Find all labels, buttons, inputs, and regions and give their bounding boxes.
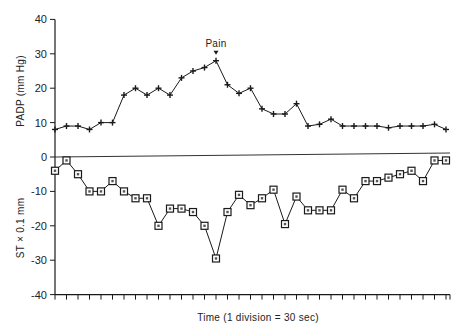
y-tick-label: 0	[41, 151, 47, 163]
square-marker-dot	[261, 197, 263, 199]
square-marker-dot	[307, 209, 309, 211]
y-axis-label-lower: ST × 0.1 mm	[15, 198, 26, 259]
square-marker-dot	[433, 159, 435, 161]
square-marker-dot	[410, 170, 412, 172]
square-marker-dot	[100, 190, 102, 192]
square-marker-dot	[284, 223, 286, 225]
square-marker-dot	[192, 211, 194, 213]
square-marker-dot	[111, 180, 113, 182]
arrow-down-icon	[214, 51, 219, 55]
square-marker-dot	[318, 209, 320, 211]
square-marker-dot	[203, 225, 205, 227]
square-marker-dot	[157, 225, 159, 227]
square-marker-dot	[422, 180, 424, 182]
square-marker-dot	[226, 211, 228, 213]
series-st	[52, 157, 450, 262]
square-marker-dot	[341, 188, 343, 190]
square-marker-dot	[54, 170, 56, 172]
square-marker-dot	[249, 204, 251, 206]
y-tick-label: 30	[35, 48, 47, 60]
square-marker-dot	[146, 197, 148, 199]
annotation-pain: Pain	[205, 38, 226, 49]
square-marker-dot	[376, 180, 378, 182]
y-tick-label: -10	[31, 185, 47, 197]
zero-reference-line	[55, 153, 450, 157]
annotations: Pain	[205, 38, 226, 55]
y-tick-label: 10	[35, 117, 47, 129]
y-tick-label: -30	[31, 254, 47, 266]
zero-line	[55, 153, 450, 157]
square-marker-dot	[123, 190, 125, 192]
square-marker-dot	[445, 159, 447, 161]
y-tick-label: 40	[35, 13, 47, 25]
square-marker-dot	[295, 195, 297, 197]
y-tick-label: 20	[35, 82, 47, 94]
square-marker-dot	[272, 188, 274, 190]
square-marker-dot	[330, 209, 332, 211]
x-axis-label: Time (1 division = 30 sec)	[197, 312, 319, 323]
square-marker-dot	[399, 173, 401, 175]
y-tick-label: -20	[31, 220, 47, 232]
square-marker-dot	[65, 159, 67, 161]
square-marker-dot	[77, 173, 79, 175]
chart: 403020100-10-20-30-40 Pain PADP (mm Hg) …	[0, 0, 469, 330]
square-marker-dot	[169, 207, 171, 209]
square-marker-dot	[180, 207, 182, 209]
square-marker-dot	[238, 194, 240, 196]
padp-line	[55, 61, 446, 130]
y-axis-label-upper: PADP (mm Hg)	[15, 55, 26, 127]
y-tick-label: -40	[31, 289, 47, 301]
square-marker-dot	[364, 180, 366, 182]
square-marker-dot	[215, 257, 217, 259]
square-marker-dot	[387, 176, 389, 178]
square-marker-dot	[134, 197, 136, 199]
square-marker-dot	[353, 197, 355, 199]
square-marker-dot	[88, 190, 90, 192]
series-padp	[52, 58, 449, 133]
